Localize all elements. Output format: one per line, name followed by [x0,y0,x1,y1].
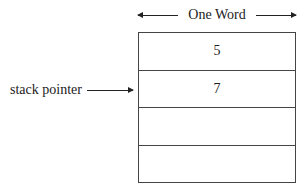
stack-cell: 5 [139,33,295,71]
stack-cell [139,146,295,183]
stack-pointer-label: stack pointer [10,82,82,98]
word-width-label: One Word [182,7,251,23]
right-arrow-icon [256,15,296,16]
stack-pointer-arrow-icon [87,90,133,91]
left-arrow-icon [138,15,178,16]
word-width-indicator: One Word [138,7,296,23]
stack: 5 7 [138,32,296,183]
stack-cell: 7 [139,71,295,109]
stack-cell [139,108,295,146]
